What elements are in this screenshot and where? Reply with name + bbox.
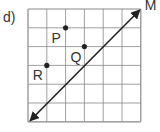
point-q: [82, 44, 87, 49]
point-r: [44, 63, 49, 68]
point-label-q: Q: [70, 49, 81, 65]
line-m-label: M: [145, 0, 157, 13]
point-label-p: P: [52, 30, 61, 46]
grid-diagram: M PQR: [0, 0, 160, 132]
points: PQR: [33, 25, 87, 83]
point-p: [63, 25, 68, 30]
point-label-r: R: [33, 67, 43, 83]
